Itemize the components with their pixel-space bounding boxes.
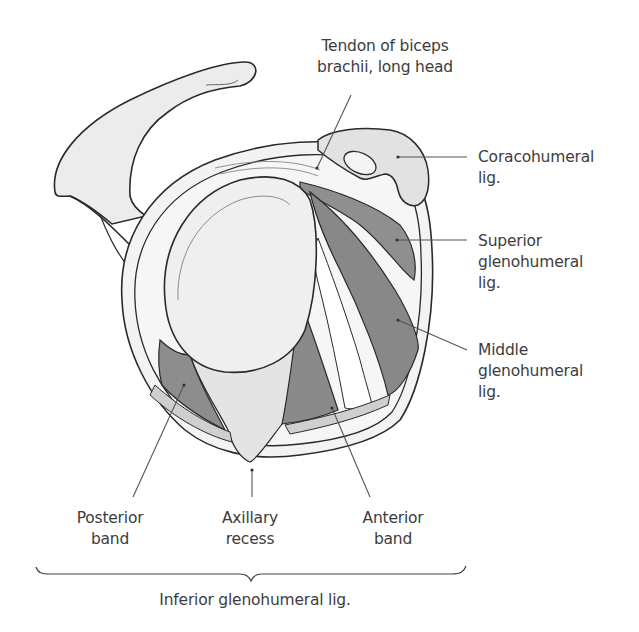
label-posterior-band: Posterior band bbox=[40, 508, 180, 550]
label-line: band bbox=[323, 529, 463, 550]
label-line: Middle bbox=[478, 340, 583, 361]
label-middle-gh: Middle glenohumeral lig. bbox=[478, 340, 583, 403]
anatomy-figure: Tendon of biceps brachii, long head Cora… bbox=[0, 0, 639, 632]
label-superior-gh: Superior glenohumeral lig. bbox=[478, 231, 583, 294]
label-line: Axillary bbox=[180, 508, 320, 529]
label-anterior-band: Anterior band bbox=[323, 508, 463, 550]
label-line: Anterior bbox=[323, 508, 463, 529]
label-line: lig. bbox=[478, 273, 583, 294]
label-line: brachii, long head bbox=[270, 57, 500, 78]
label-tendon-biceps: Tendon of biceps brachii, long head bbox=[270, 36, 500, 78]
label-line: Posterior bbox=[40, 508, 180, 529]
label-line: lig. bbox=[478, 168, 594, 189]
label-coracohumeral: Coracohumeral lig. bbox=[478, 147, 594, 189]
label-line: Inferior glenohumeral lig. bbox=[60, 590, 450, 611]
label-line: Coracohumeral bbox=[478, 147, 594, 168]
label-axillary-recess: Axillary recess bbox=[180, 508, 320, 550]
label-line: lig. bbox=[478, 382, 583, 403]
label-line: Superior bbox=[478, 231, 583, 252]
label-line: glenohumeral bbox=[478, 361, 583, 382]
inferior-gh-brace bbox=[36, 566, 466, 581]
label-line: recess bbox=[180, 529, 320, 550]
label-inferior-gh: Inferior glenohumeral lig. bbox=[60, 590, 450, 611]
label-line: glenohumeral bbox=[478, 252, 583, 273]
label-line: band bbox=[40, 529, 180, 550]
label-line: Tendon of biceps bbox=[270, 36, 500, 57]
